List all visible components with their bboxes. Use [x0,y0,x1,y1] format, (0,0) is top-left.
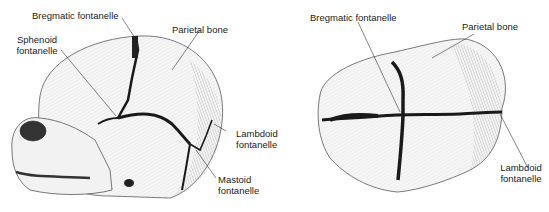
label-line: fontanelle [236,139,278,150]
label-line: Sphenoid [16,34,58,45]
label-line: fontanelle [498,173,544,184]
label-parietal-bone-superior: Parietal bone [462,21,518,32]
label-lambdoid-fontanelle-superior: Lambdoid fontanelle [498,162,544,184]
label-line: Mastoid [218,174,259,185]
label-line: Lambdoid [236,128,278,139]
label-line: fontanelle [218,185,259,196]
label-mastoid-fontanelle: Mastoid fontanelle [218,174,259,196]
label-line: fontanelle [16,45,58,56]
fontanelle-diagram: Bregmatic fontanelle Parietal bone Sphen… [0,0,549,212]
label-bregmatic-fontanelle-superior: Bregmatic fontanelle [310,12,397,23]
label-line: Lambdoid [498,162,544,173]
superior-skull [318,22,528,192]
label-lambdoid-fontanelle-lateral: Lambdoid fontanelle [236,128,278,150]
label-parietal-bone-lateral: Parietal bone [172,24,228,35]
label-sphenoid-fontanelle: Sphenoid fontanelle [16,34,58,56]
label-bregmatic-fontanelle-lateral: Bregmatic fontanelle [32,10,119,21]
